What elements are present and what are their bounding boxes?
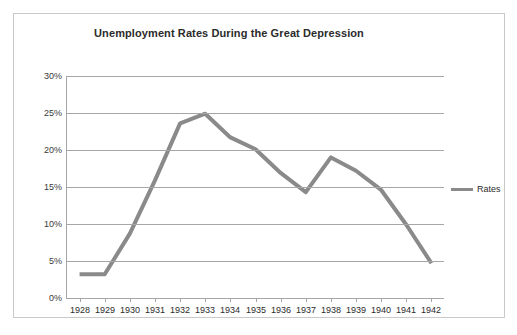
gridline-5% <box>67 261 444 262</box>
legend-label-rates: Rates <box>477 184 501 194</box>
x-tick-mark-1930 <box>130 298 131 302</box>
gridline-20% <box>67 150 444 151</box>
x-tick-mark-1929 <box>105 298 106 302</box>
gridline-10% <box>67 224 444 225</box>
chart-frame: Unemployment Rates During the Great Depr… <box>13 13 505 318</box>
chart-legend: Rates <box>451 184 501 194</box>
x-tick-mark-1931 <box>155 298 156 302</box>
x-tick-mark-1933 <box>205 298 206 302</box>
plot-area <box>67 76 444 298</box>
x-tick-label-1942: 1942 <box>411 305 451 315</box>
gridline-25% <box>67 113 444 114</box>
chart-title: Unemployment Rates During the Great Depr… <box>14 27 444 39</box>
y-tick-label-0%: 0% <box>28 293 62 303</box>
y-tick-label-5%: 5% <box>28 256 62 266</box>
x-tick-mark-1938 <box>331 298 332 302</box>
x-tick-mark-1942 <box>431 298 432 302</box>
y-tick-label-10%: 10% <box>28 219 62 229</box>
x-tick-mark-1941 <box>406 298 407 302</box>
y-tick-label-20%: 20% <box>28 145 62 155</box>
x-axis-line <box>66 298 444 299</box>
gridline-15% <box>67 187 444 188</box>
x-tick-mark-1940 <box>381 298 382 302</box>
x-tick-mark-1935 <box>256 298 257 302</box>
gridline-30% <box>67 76 444 77</box>
legend-swatch-rates <box>451 188 473 191</box>
series-path-rates <box>80 114 432 275</box>
y-axis-labels: 0%5%10%15%20%25%30% <box>24 76 62 298</box>
x-tick-mark-1928 <box>80 298 81 302</box>
x-tick-mark-1932 <box>180 298 181 302</box>
y-tick-label-15%: 15% <box>28 182 62 192</box>
y-tick-label-30%: 30% <box>28 71 62 81</box>
x-tick-mark-1936 <box>281 298 282 302</box>
y-tick-label-25%: 25% <box>28 108 62 118</box>
x-tick-mark-1939 <box>356 298 357 302</box>
chart-screenshot: Unemployment Rates During the Great Depr… <box>0 0 517 335</box>
x-tick-mark-1934 <box>230 298 231 302</box>
x-tick-mark-1937 <box>306 298 307 302</box>
